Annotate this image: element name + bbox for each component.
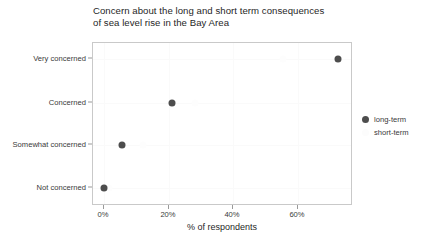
y-tick-label-concerned: Concerned [49,98,86,107]
gridline-vertical [169,43,170,204]
x-tick-label-60: 60% [289,210,304,219]
data-point-long-term-somewhat-concerned [119,142,126,149]
chart-figure: Concern about the long and short term co… [0,0,429,244]
x-tick-label-40: 40% [224,210,239,219]
y-tick-label-somewhat-concerned: Somewhat concerned [13,140,86,149]
legend-item-short-term: short-term [362,126,429,139]
legend: long-term short-term [362,113,429,139]
gridline-horizontal [93,59,351,60]
data-point-short-term-somewhat-concerned [140,142,147,149]
x-tick-mark [168,205,169,209]
data-point-short-term-concerned [192,100,199,107]
y-tick-label-not-concerned: Not concerned [37,183,86,192]
x-tick-mark [232,205,233,209]
x-tick-mark [297,205,298,209]
data-point-long-term-very-concerned [335,56,342,63]
gridline-vertical [233,43,234,204]
x-tick-mark [103,205,104,209]
y-axis: Very concerned Concerned Somewhat concer… [0,0,86,244]
legend-marker-icon [362,129,369,136]
x-tick-label-0: 0% [98,210,109,219]
data-point-long-term-not-concerned [101,185,108,192]
legend-marker-icon [362,116,369,123]
x-tick-label-20: 20% [160,210,175,219]
gridline-vertical [298,43,299,204]
plot-inner [93,43,351,204]
data-point-long-term-concerned [169,100,176,107]
plot-area [92,42,352,205]
gridline-horizontal [93,103,351,104]
chart-title: Concern about the long and short term co… [93,5,393,30]
gridline-horizontal [93,188,351,189]
gridline-vertical [104,43,105,204]
legend-item-long-term: long-term [362,113,429,126]
data-point-short-term-very-concerned [280,56,287,63]
legend-label-long-term: long-term [374,115,406,124]
y-tick-label-very-concerned: Very concerned [33,54,86,63]
legend-label-short-term: short-term [374,128,409,137]
x-axis-title: % of respondents [92,222,352,232]
gridline-horizontal [93,145,351,146]
